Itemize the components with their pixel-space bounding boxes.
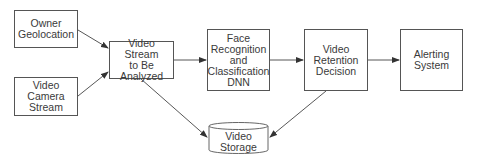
node-label: Face Recognition and Classification DNN xyxy=(208,33,270,88)
edge-camera-to-stream xyxy=(78,72,108,96)
node-video-retention-decision: Video Retention Decision xyxy=(304,29,368,91)
edge-stream-to-storage xyxy=(141,79,207,137)
node-label: Video Stream to Be Analyzed xyxy=(110,38,173,82)
node-label: Alerting System xyxy=(414,49,450,71)
edge-retention-to-storage xyxy=(270,91,326,137)
node-label: Owner Geolocation xyxy=(18,18,74,40)
node-label: Video Retention Decision xyxy=(314,44,359,77)
node-video-camera-stream: Video Camera Stream xyxy=(14,77,78,116)
node-owner-geolocation: Owner Geolocation xyxy=(14,10,78,48)
node-video-storage: Video Storage xyxy=(209,131,268,153)
node-face-recognition-dnn: Face Recognition and Classification DNN xyxy=(207,29,270,91)
node-alerting-system: Alerting System xyxy=(400,29,463,91)
node-label: Video Camera Stream xyxy=(27,80,64,113)
node-video-stream-to-be-analyzed: Video Stream to Be Analyzed xyxy=(109,41,174,79)
edge-owner-to-stream xyxy=(78,30,108,48)
